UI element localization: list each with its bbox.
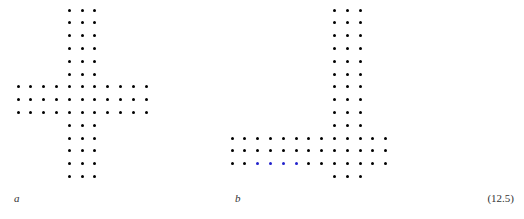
lattice-dot	[346, 34, 349, 37]
lattice-dot	[231, 137, 234, 140]
lattice-dot	[346, 98, 349, 101]
lattice-dot	[93, 85, 96, 88]
lattice-dot	[346, 149, 349, 152]
lattice-dot	[68, 73, 71, 76]
lattice-dot	[346, 47, 349, 50]
lattice-dot	[81, 47, 84, 50]
lattice-dot	[359, 85, 362, 88]
figure-container: a b (12.5)	[0, 0, 524, 219]
lattice-dot	[243, 137, 246, 140]
lattice-dot	[333, 47, 336, 50]
lattice-dot	[269, 137, 272, 140]
lattice-dot	[333, 149, 336, 152]
panel-label-b: b	[235, 192, 241, 204]
lattice-dot	[119, 85, 122, 88]
lattice-dot	[68, 124, 71, 127]
lattice-dot	[359, 60, 362, 63]
lattice-dot	[346, 124, 349, 127]
lattice-dot	[132, 85, 135, 88]
lattice-dot	[359, 98, 362, 101]
lattice-dot	[132, 98, 135, 101]
lattice-dot	[81, 111, 84, 114]
lattice-dot	[81, 21, 84, 24]
lattice-dot	[81, 149, 84, 152]
lattice-dot	[145, 85, 148, 88]
lattice-dot	[359, 162, 362, 165]
lattice-dot	[307, 149, 310, 152]
lattice-dot	[320, 162, 323, 165]
lattice-dot	[93, 34, 96, 37]
lattice-dot	[346, 137, 349, 140]
lattice-dot	[93, 47, 96, 50]
lattice-dot	[231, 149, 234, 152]
lattice-dot	[384, 149, 387, 152]
lattice-dot	[68, 9, 71, 12]
lattice-dot	[81, 60, 84, 63]
lattice-dot	[333, 60, 336, 63]
lattice-dot	[93, 73, 96, 76]
lattice-dot	[243, 149, 246, 152]
lattice-dot	[333, 137, 336, 140]
lattice-dot	[68, 98, 71, 101]
lattice-dot	[346, 21, 349, 24]
lattice-panel-b	[0, 0, 524, 219]
lattice-dot	[93, 149, 96, 152]
lattice-dot	[269, 162, 272, 165]
lattice-dot	[346, 60, 349, 63]
lattice-dot	[93, 9, 96, 12]
panel-label-a: a	[14, 192, 20, 204]
lattice-dot	[93, 162, 96, 165]
lattice-dot	[231, 162, 234, 165]
lattice-dot	[93, 175, 96, 178]
lattice-dot	[371, 162, 374, 165]
lattice-dot	[256, 149, 259, 152]
lattice-dot	[282, 137, 285, 140]
lattice-dot	[106, 98, 109, 101]
lattice-dot	[307, 162, 310, 165]
lattice-dot	[42, 85, 45, 88]
lattice-dot	[346, 9, 349, 12]
lattice-dot	[371, 137, 374, 140]
lattice-dot	[333, 175, 336, 178]
lattice-dot	[282, 162, 285, 165]
lattice-dot	[93, 137, 96, 140]
lattice-dot	[81, 175, 84, 178]
lattice-dot	[93, 98, 96, 101]
lattice-dot	[93, 60, 96, 63]
lattice-dot	[17, 85, 20, 88]
lattice-dot	[359, 9, 362, 12]
lattice-dot	[269, 149, 272, 152]
lattice-dot	[333, 21, 336, 24]
lattice-dot	[333, 85, 336, 88]
lattice-panel-a	[0, 0, 524, 219]
lattice-dot	[68, 162, 71, 165]
lattice-dot	[307, 137, 310, 140]
lattice-dot	[346, 73, 349, 76]
lattice-dot	[295, 137, 298, 140]
equation-number: (12.5)	[487, 192, 514, 204]
lattice-dot	[29, 111, 32, 114]
lattice-dot	[359, 47, 362, 50]
lattice-dot	[320, 137, 323, 140]
lattice-dot	[243, 162, 246, 165]
lattice-dot	[132, 111, 135, 114]
lattice-dot	[55, 111, 58, 114]
lattice-dot	[81, 85, 84, 88]
lattice-dot	[333, 124, 336, 127]
lattice-dot	[346, 175, 349, 178]
lattice-dot	[295, 162, 298, 165]
lattice-dot	[81, 98, 84, 101]
lattice-dot	[81, 124, 84, 127]
lattice-dot	[119, 98, 122, 101]
lattice-dot	[55, 98, 58, 101]
lattice-dot	[42, 98, 45, 101]
lattice-dot	[359, 149, 362, 152]
lattice-dot	[359, 175, 362, 178]
lattice-dot	[106, 85, 109, 88]
lattice-dot	[68, 149, 71, 152]
lattice-dot	[68, 21, 71, 24]
lattice-dot	[333, 98, 336, 101]
lattice-dot	[256, 137, 259, 140]
lattice-dot	[81, 9, 84, 12]
lattice-dot	[346, 85, 349, 88]
